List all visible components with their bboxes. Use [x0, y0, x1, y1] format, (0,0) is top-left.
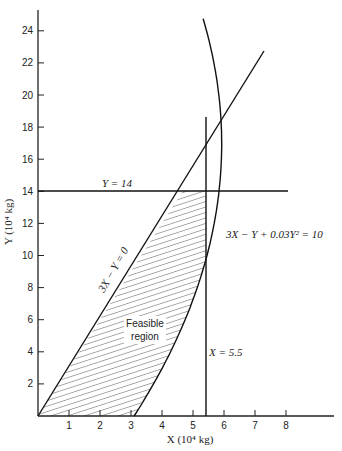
- y-tick-label: 14: [22, 186, 34, 197]
- y-tick-label: 6: [27, 314, 33, 325]
- x-tick-label: 8: [283, 420, 289, 431]
- x-tick-label: 4: [159, 420, 165, 431]
- y-tick-label: 10: [22, 250, 34, 261]
- y-tick-label: 4: [27, 346, 33, 357]
- y-tick-label: 2: [27, 378, 33, 389]
- y-axis-ticks: 24681012141618202224: [22, 25, 44, 389]
- label-x-eq-5-5: X = 5.5: [208, 346, 243, 358]
- x-tick-label: 3: [128, 420, 134, 431]
- x-tick-label: 1: [66, 420, 72, 431]
- x-tick-label: 2: [97, 420, 103, 431]
- y-tick-label: 24: [22, 25, 34, 36]
- x-tick-label: 5: [190, 420, 196, 431]
- y-tick-label: 18: [22, 122, 34, 133]
- label-y-eq-14: Y = 14: [102, 177, 133, 189]
- y-tick-label: 12: [22, 218, 34, 229]
- x-axis-ticks: 12345678: [66, 410, 289, 431]
- y-axis-title: Y (10⁴ kg): [2, 199, 15, 246]
- y-tick-label: 16: [22, 154, 34, 165]
- y-tick-label: 20: [22, 90, 34, 101]
- x-tick-label: 6: [221, 420, 227, 431]
- y-tick-label: 8: [27, 282, 33, 293]
- label-curve: 3X − Y + 0.03Y² = 10: [225, 228, 323, 240]
- x-tick-label: 7: [252, 420, 258, 431]
- x-axis-title: X (10⁴ kg): [167, 433, 214, 446]
- constraint-diagram: 12345678 24681012141618202224 X (10⁴ kg)…: [0, 0, 342, 451]
- region-label-line1: Feasible: [126, 318, 164, 329]
- y-tick-label: 22: [22, 57, 34, 68]
- feasible-region: [38, 191, 206, 416]
- region-label-line2: region: [131, 331, 159, 342]
